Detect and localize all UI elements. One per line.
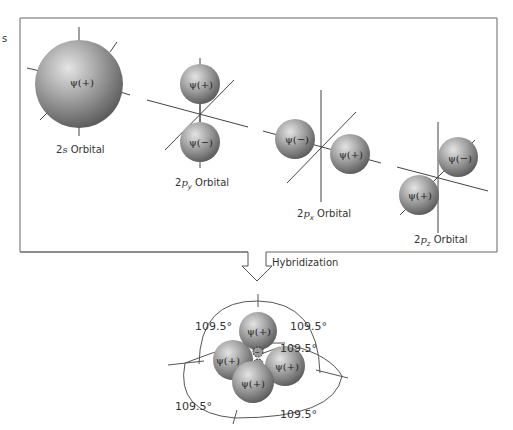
angle-label: 109.5° [280,342,317,355]
orbital-2s: ψ(+) 2s Orbital [27,27,130,155]
angle-label: 109.5° [280,408,317,421]
psi-label: ψ(+) [408,190,432,201]
arrow-label: Hybridization [272,257,338,268]
corner-mark: s [2,33,7,44]
orbital-2py: ψ(+) ψ(−) 2py Orbital [147,58,248,191]
orbital-label-2s: 2s Orbital [56,144,105,155]
angle-label: 109.5° [175,400,212,413]
psi-label: ψ(−) [448,153,472,164]
psi-label: ψ(+) [70,77,94,88]
sp3-hybrid: − − ψ(+) ψ(+) ψ(+) ψ(+) 109.5° 109.5° 10… [168,294,348,424]
psi-label: ψ(+) [241,378,265,389]
orbital-2px: ψ(−) ψ(+) 2px Orbital [263,90,381,222]
orbital-label-2py: 2py Orbital [175,177,229,191]
psi-label: ψ(−) [189,137,213,148]
orbital-label-2px: 2px Orbital [297,208,351,222]
psi-label: ψ(+) [275,361,299,372]
orbital-label-2pz: 2pz Orbital [414,234,468,248]
small-lobe-sign: − [255,348,260,357]
sp3-hybridization-diagram: s ψ(+) 2s Orbital ψ(+) ψ(−) 2py Orbital … [0,0,513,430]
orbital-2pz: ψ(−) ψ(+) 2pz Orbital [397,122,488,248]
psi-label: ψ(−) [285,134,309,145]
psi-label: ψ(+) [189,79,213,90]
hybridization-arrow: Hybridization [242,252,338,281]
angle-label: 109.5° [195,320,232,333]
psi-label: ψ(+) [216,355,240,366]
psi-label: ψ(+) [339,149,363,160]
psi-label: ψ(+) [247,326,271,337]
angle-label: 109.5° [290,320,327,333]
